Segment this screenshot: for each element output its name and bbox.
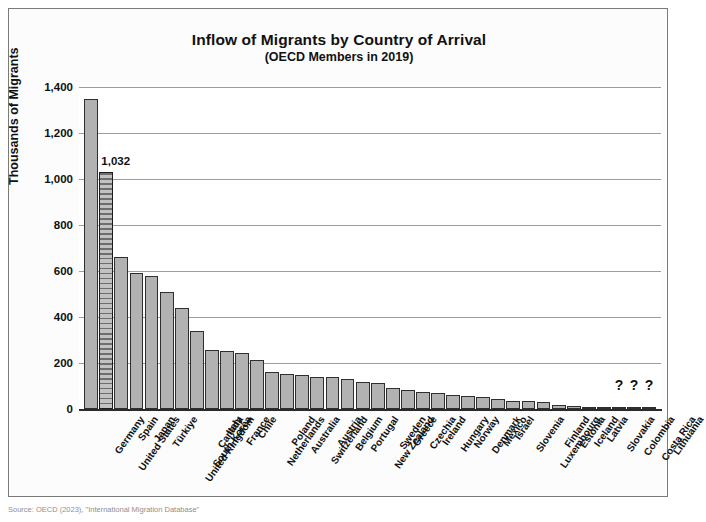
gridline <box>79 271 661 272</box>
bar <box>537 402 551 409</box>
y-axis-label: Thousands of Migrants <box>7 48 21 186</box>
bar <box>356 382 370 409</box>
bar <box>627 407 641 409</box>
bar <box>250 360 264 409</box>
question-mark-annotation: ? <box>645 377 654 393</box>
chart-frame: Inflow of Migrants by Country of Arrival… <box>8 8 668 497</box>
y-tick-label: 600 <box>9 265 73 277</box>
bar <box>175 308 189 409</box>
bar <box>491 399 505 409</box>
y-tick-label: 400 <box>9 311 73 323</box>
gridline <box>79 133 661 134</box>
question-mark-annotation: ? <box>615 377 624 393</box>
chart-subtitle: (OECD Members in 2019) <box>9 50 669 64</box>
bar <box>552 405 566 409</box>
bar <box>567 406 581 409</box>
y-tick-label: 1,200 <box>9 127 73 139</box>
bar <box>431 393 445 409</box>
bar <box>190 331 204 409</box>
bar <box>280 374 294 409</box>
bar <box>446 395 460 409</box>
bar-value-label: 1,032 <box>101 155 130 167</box>
bar <box>612 407 626 409</box>
bar <box>341 379 355 409</box>
bar <box>642 407 656 409</box>
bar <box>160 292 174 409</box>
gridline <box>79 179 661 180</box>
y-tick-label: 1,000 <box>9 173 73 185</box>
y-tick-label: 800 <box>9 219 73 231</box>
bar <box>99 172 113 409</box>
bar <box>371 383 385 409</box>
question-mark-annotation: ? <box>630 377 639 393</box>
y-tick-label: 0 <box>9 403 73 415</box>
bar <box>522 401 536 409</box>
bar <box>386 388 400 409</box>
bar <box>205 350 219 409</box>
bar <box>476 397 490 409</box>
bar <box>461 396 475 409</box>
bar <box>310 377 324 409</box>
source-note: Source: OECD (2023), "International Migr… <box>8 505 199 514</box>
bar <box>326 377 340 409</box>
bar <box>114 257 128 409</box>
x-tick-label: Slovenia <box>534 414 567 454</box>
gridline <box>79 87 661 88</box>
bar <box>582 407 596 409</box>
bar <box>265 372 279 409</box>
bar <box>401 390 415 409</box>
chart-title-block: Inflow of Migrants by Country of Arrival… <box>9 31 669 64</box>
chart-title: Inflow of Migrants by Country of Arrival <box>9 31 669 49</box>
plot-area: 1,032??? <box>79 87 661 409</box>
bar <box>416 392 430 409</box>
bar <box>145 276 159 409</box>
gridline <box>79 225 661 226</box>
y-tick-label: 1,400 <box>9 81 73 93</box>
y-tick-label: 200 <box>9 357 73 369</box>
bar <box>597 407 611 409</box>
bar <box>84 99 98 409</box>
x-axis-line <box>79 409 662 411</box>
bar <box>235 353 249 409</box>
bar <box>506 401 520 409</box>
bar <box>295 375 309 409</box>
bar <box>130 273 144 409</box>
bar <box>220 351 234 409</box>
